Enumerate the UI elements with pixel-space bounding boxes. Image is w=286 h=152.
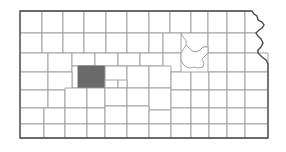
- county-cell[interactable]: [171, 108, 191, 124]
- county-cell[interactable]: [48, 72, 72, 90]
- county-cell[interactable]: [63, 11, 84, 33]
- county-cell[interactable]: [44, 108, 65, 124]
- county-cell[interactable]: [105, 88, 127, 106]
- county-cell[interactable]: [44, 124, 65, 138]
- county-cell[interactable]: [245, 33, 263, 53]
- county-cell[interactable]: [20, 124, 44, 138]
- county-cell[interactable]: [65, 108, 87, 124]
- county-cell[interactable]: [245, 90, 268, 108]
- county-cell[interactable]: [245, 108, 268, 124]
- county-cell[interactable]: [20, 11, 42, 33]
- county-layer: [20, 11, 268, 138]
- county-cell[interactable]: [87, 88, 105, 108]
- county-cell[interactable]: [42, 11, 63, 33]
- county-cell[interactable]: [208, 53, 227, 72]
- county-cell[interactable]: [42, 33, 63, 53]
- county-cell[interactable]: [149, 88, 171, 110]
- county-cell[interactable]: [48, 53, 72, 72]
- county-cell[interactable]: [245, 124, 268, 138]
- county-cell[interactable]: [227, 108, 245, 124]
- county-cell[interactable]: [106, 33, 127, 53]
- county-cell[interactable]: [84, 33, 106, 53]
- county-cell[interactable]: [149, 66, 171, 88]
- county-cell[interactable]: [20, 72, 48, 90]
- county-cell[interactable]: [127, 11, 149, 33]
- county-cell[interactable]: [105, 124, 127, 138]
- county-cell[interactable]: [191, 90, 209, 108]
- county-cell[interactable]: [84, 11, 106, 33]
- county-cell[interactable]: [245, 53, 268, 72]
- county-cell[interactable]: [171, 124, 191, 138]
- county-cell[interactable]: [87, 108, 105, 124]
- map-container: Map of Kansas showing all counties with …: [0, 0, 286, 152]
- county-cell[interactable]: [87, 124, 105, 138]
- county-cell[interactable]: [227, 11, 245, 33]
- county-cell[interactable]: [209, 124, 227, 138]
- county-cell[interactable]: [20, 53, 48, 72]
- county-cell[interactable]: [63, 33, 84, 53]
- county-cell[interactable]: [171, 90, 191, 108]
- county-cell[interactable]: [118, 53, 140, 66]
- kansas-county-map[interactable]: [0, 0, 286, 152]
- county-cell[interactable]: [127, 88, 149, 106]
- county-cell[interactable]: [227, 53, 245, 72]
- county-cell[interactable]: [171, 72, 191, 90]
- county-cell[interactable]: [127, 106, 149, 124]
- county-cell[interactable]: [149, 124, 171, 138]
- county-cell[interactable]: [140, 53, 163, 66]
- county-cell[interactable]: [105, 80, 118, 88]
- county-cell[interactable]: [227, 33, 245, 53]
- county-cell[interactable]: [191, 108, 209, 124]
- county-cell[interactable]: [163, 33, 181, 53]
- county-cell[interactable]: [227, 90, 245, 108]
- county-cell[interactable]: [127, 33, 149, 53]
- county-cell[interactable]: [209, 108, 227, 124]
- county-cell[interactable]: [149, 11, 170, 33]
- county-cell[interactable]: [95, 53, 118, 66]
- county-cell[interactable]: [48, 90, 65, 108]
- county-cell[interactable]: [118, 80, 127, 88]
- county-cell[interactable]: [20, 33, 42, 53]
- county-cell[interactable]: [191, 11, 208, 33]
- county-cell[interactable]: [227, 124, 245, 138]
- county-cell[interactable]: [65, 124, 87, 138]
- county-cell[interactable]: [72, 53, 95, 66]
- county-cell[interactable]: [127, 124, 149, 138]
- county-cell[interactable]: [106, 11, 127, 33]
- county-cell[interactable]: [227, 72, 245, 90]
- highlighted-county[interactable]: [78, 66, 105, 88]
- county-cell[interactable]: [105, 106, 127, 124]
- county-cell[interactable]: [209, 72, 227, 90]
- county-cell[interactable]: [191, 124, 209, 138]
- county-cell[interactable]: [208, 33, 227, 53]
- county-cell[interactable]: [20, 90, 48, 108]
- county-cell[interactable]: [170, 11, 191, 33]
- county-cell[interactable]: [208, 11, 227, 33]
- county-cell[interactable]: [127, 66, 149, 88]
- county-cell[interactable]: [191, 72, 209, 90]
- county-cell[interactable]: [149, 110, 171, 124]
- county-cell[interactable]: [20, 108, 44, 124]
- county-cell[interactable]: [245, 72, 268, 90]
- county-cell[interactable]: [209, 90, 227, 108]
- county-cell[interactable]: [65, 88, 87, 108]
- county-cell[interactable]: [149, 33, 163, 53]
